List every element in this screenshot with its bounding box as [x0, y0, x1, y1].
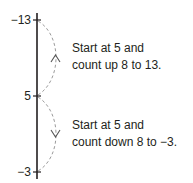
count-down-note-line2: count down 8 to −3. — [72, 134, 177, 151]
count-down-note-line1: Start at 5 and — [72, 117, 177, 134]
tick-label-bottom: −3 — [1, 166, 31, 178]
tick-label-middle: 5 — [1, 90, 31, 102]
number-line-diagram: −13 5 −3 Start at 5 and count up 8 to 13… — [0, 0, 193, 183]
count-up-note: Start at 5 and count up 8 to 13. — [72, 40, 161, 74]
tick-label-top: −13 — [1, 14, 31, 26]
count-up-note-line1: Start at 5 and — [72, 40, 161, 57]
count-down-note: Start at 5 and count down 8 to −3. — [72, 117, 177, 151]
count-up-note-line2: count up 8 to 13. — [72, 57, 161, 74]
